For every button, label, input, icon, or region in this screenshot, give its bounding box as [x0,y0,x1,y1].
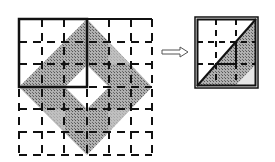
left-grid-figure [19,19,152,155]
diagram-canvas [0,0,275,162]
right-square-figure [195,17,258,88]
arrow-right-icon [162,47,188,57]
